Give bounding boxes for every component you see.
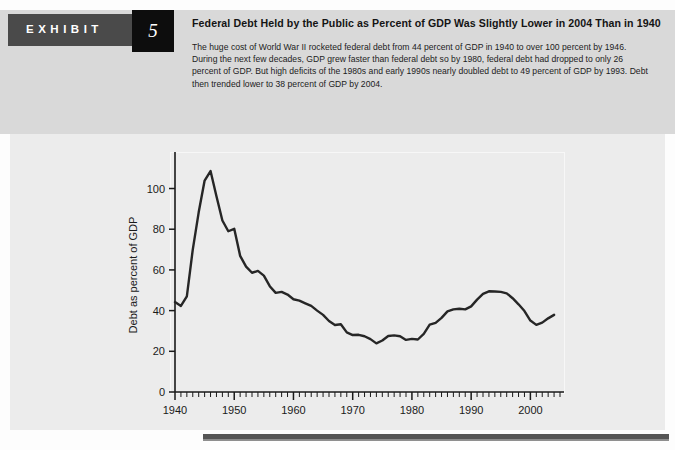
chart-region: 0204060801001940195019601970198019902000…	[10, 134, 665, 430]
exhibit-page: EXHIBIT 5 Federal Debt Held by the Publi…	[0, 0, 675, 450]
exhibit-label: EXHIBIT	[26, 23, 103, 35]
svg-text:1980: 1980	[400, 404, 424, 416]
exhibit-number: 5	[132, 10, 174, 52]
svg-text:40: 40	[153, 305, 165, 317]
svg-text:0: 0	[159, 386, 165, 398]
svg-text:1970: 1970	[340, 404, 364, 416]
exhibit-title: Federal Debt Held by the Public as Perce…	[192, 16, 662, 31]
svg-text:1950: 1950	[222, 404, 246, 416]
exhibit-number-box: 5	[132, 10, 174, 52]
svg-text:1940: 1940	[163, 404, 187, 416]
svg-text:2000: 2000	[518, 404, 542, 416]
debt-to-gdp-line-chart: 0204060801001940195019601970198019902000…	[10, 134, 665, 430]
svg-text:1990: 1990	[459, 404, 483, 416]
svg-text:80: 80	[153, 223, 165, 235]
bottom-rule-shadow	[203, 439, 669, 441]
svg-text:100: 100	[147, 183, 165, 195]
exhibit-header-text: Federal Debt Held by the Public as Perce…	[192, 16, 662, 90]
svg-text:Debt as percent of GDP: Debt as percent of GDP	[127, 217, 139, 334]
svg-text:1960: 1960	[281, 404, 305, 416]
exhibit-description: The huge cost of World War II rocketed f…	[192, 41, 654, 91]
svg-text:20: 20	[153, 345, 165, 357]
svg-text:60: 60	[153, 264, 165, 276]
